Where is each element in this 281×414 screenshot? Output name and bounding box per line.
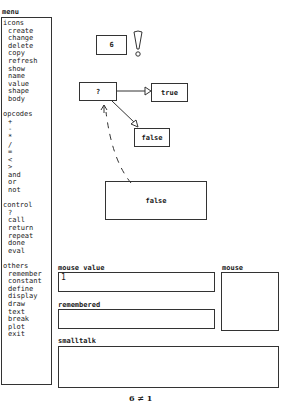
mouse-pad[interactable] <box>221 272 279 331</box>
false-branch-arrow <box>112 101 135 123</box>
diagram-connectors <box>0 0 281 260</box>
menu-item[interactable]: exit <box>3 331 42 339</box>
mouse-label: mouse <box>222 264 243 272</box>
status-text: 6 ≠ 1 <box>129 393 152 403</box>
mouse-value-field[interactable]: 1 <box>58 272 215 292</box>
mouse-value-label: mouse value <box>58 264 104 272</box>
remembered-field[interactable] <box>58 309 215 329</box>
mouse-value-text: 1 <box>61 273 66 282</box>
remembered-label: remembered <box>58 301 100 309</box>
return-dashed-arrow <box>106 112 131 183</box>
smalltalk-field[interactable] <box>58 346 279 388</box>
smalltalk-label: smalltalk <box>58 337 96 345</box>
arrowhead-icon <box>131 120 138 127</box>
arrowhead-icon <box>145 87 151 95</box>
